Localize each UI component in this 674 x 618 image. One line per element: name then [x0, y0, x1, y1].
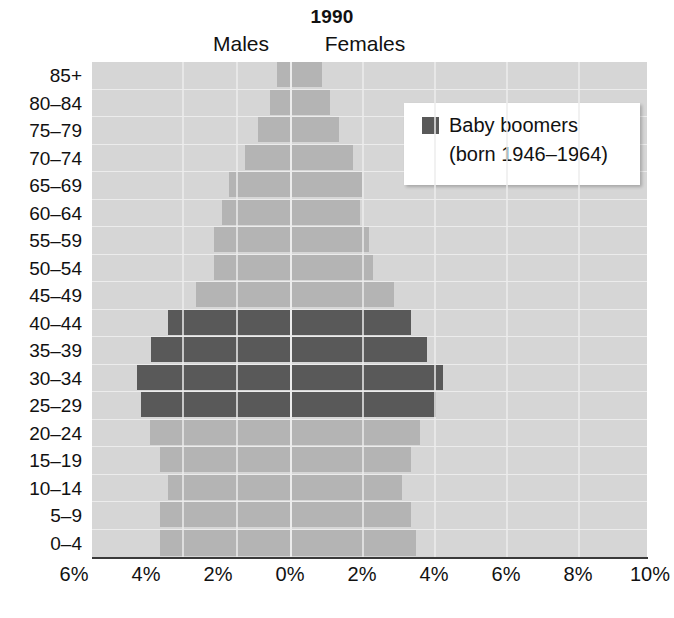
gridline-zero — [290, 62, 292, 557]
bar-row — [92, 447, 647, 475]
age-group-label: 25–29 — [0, 392, 86, 420]
bar-row — [92, 282, 647, 310]
bar-male — [270, 90, 290, 115]
bar-female — [290, 200, 360, 225]
legend-label: Baby boomers — [449, 114, 578, 137]
bar-male — [141, 392, 290, 417]
bar-female — [290, 475, 402, 500]
gridline-4pct-left — [182, 62, 184, 557]
legend-sublabel: (born 1946–1964) — [449, 143, 640, 166]
bar-male — [214, 227, 290, 252]
bar-female — [290, 420, 420, 445]
x-axis-tick-labels: 6%4%2%0%2%4%6%8%10% — [0, 563, 664, 595]
age-group-label: 45–49 — [0, 282, 86, 310]
gridline-8pct-right — [578, 62, 580, 557]
bar-row — [92, 337, 647, 365]
bar-male — [245, 145, 290, 170]
bar-row — [92, 227, 647, 255]
bar-male — [137, 365, 290, 390]
legend-box: Baby boomers (born 1946–1964) — [404, 103, 640, 185]
age-group-label: 20–24 — [0, 420, 86, 448]
bar-female — [290, 117, 339, 142]
age-group-label: 15–19 — [0, 447, 86, 475]
bar-row — [92, 392, 647, 420]
bar-female — [290, 530, 416, 556]
legend-entry-baby-boomers: Baby boomers — [422, 114, 640, 137]
bar-male — [258, 117, 290, 142]
bar-male — [160, 502, 290, 527]
bar-male — [168, 310, 290, 335]
x-tick-label: 6% — [44, 563, 104, 586]
bar-male — [277, 62, 290, 87]
bar-female — [290, 172, 362, 197]
bar-female — [290, 310, 411, 335]
bar-row — [92, 255, 647, 283]
gridline-6pct-right — [506, 62, 508, 557]
bar-female — [290, 255, 373, 280]
age-group-label: 60–64 — [0, 200, 86, 228]
bar-male — [214, 255, 290, 280]
bar-male — [151, 337, 290, 362]
x-tick-label: 2% — [188, 563, 248, 586]
bar-male — [229, 172, 290, 197]
x-tick-label: 6% — [476, 563, 536, 586]
bar-row — [92, 310, 647, 338]
legend-swatch-icon — [422, 117, 439, 134]
bar-row — [92, 200, 647, 228]
bar-female — [290, 62, 322, 87]
bar-male — [160, 530, 290, 556]
bar-male — [160, 447, 290, 472]
age-group-label: 5–9 — [0, 502, 86, 530]
bar-row — [92, 62, 647, 90]
age-group-label: 70–74 — [0, 145, 86, 173]
bar-female — [290, 145, 353, 170]
age-group-axis: 85+80–8475–7970–7465–6960–6455–5950–5445… — [0, 62, 86, 557]
age-group-label: 30–34 — [0, 365, 86, 393]
age-group-label: 85+ — [0, 62, 86, 90]
age-group-label: 10–14 — [0, 475, 86, 503]
bar-male — [196, 282, 290, 307]
age-group-label: 40–44 — [0, 310, 86, 338]
bar-row — [92, 365, 647, 393]
bar-female — [290, 337, 427, 362]
age-group-label: 0–4 — [0, 530, 86, 558]
females-axis-label: Females — [300, 32, 430, 56]
age-group-label: 75–79 — [0, 117, 86, 145]
x-tick-label: 2% — [332, 563, 392, 586]
bar-row — [92, 530, 647, 558]
bar-female — [290, 447, 411, 472]
bar-female — [290, 90, 330, 115]
age-group-label: 65–69 — [0, 172, 86, 200]
gridline-4pct-right — [434, 62, 436, 557]
bar-female — [290, 282, 394, 307]
x-tick-label: 4% — [116, 563, 176, 586]
bar-row — [92, 502, 647, 530]
bar-row — [92, 420, 647, 448]
gridline-2pct-right — [362, 62, 364, 557]
bar-male — [150, 420, 290, 445]
bar-male — [168, 475, 290, 500]
x-tick-label: 10% — [620, 563, 674, 586]
bar-male — [222, 200, 290, 225]
age-group-label: 35–39 — [0, 337, 86, 365]
age-group-label: 55–59 — [0, 227, 86, 255]
x-axis-line — [92, 557, 648, 559]
age-group-label: 80–84 — [0, 90, 86, 118]
bar-female — [290, 502, 411, 527]
x-tick-label: 0% — [260, 563, 320, 586]
gridline-2pct-left — [236, 62, 238, 557]
x-tick-label: 4% — [404, 563, 464, 586]
bar-row — [92, 475, 647, 503]
males-axis-label: Males — [186, 32, 296, 56]
age-group-label: 50–54 — [0, 255, 86, 283]
bar-female — [290, 365, 443, 390]
x-tick-label: 8% — [548, 563, 608, 586]
chart-title: 1990 — [0, 6, 664, 28]
bar-female — [290, 227, 369, 252]
